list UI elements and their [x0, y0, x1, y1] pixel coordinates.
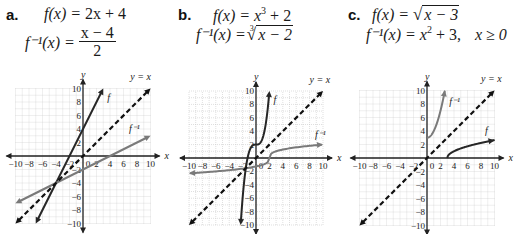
series-label: y = x	[480, 73, 502, 84]
y-tick-label: 6	[421, 113, 426, 123]
y-tick-label: −6	[415, 194, 425, 204]
y-tick-label: 4	[421, 126, 426, 136]
x-tick-label: 8	[479, 161, 484, 171]
x-tick-label: 0	[430, 161, 435, 171]
x-tick-label: −6	[382, 161, 392, 171]
y-tick-label: 10	[416, 86, 426, 96]
arrowhead-icon	[499, 155, 505, 161]
x-tick-label: 4	[452, 161, 457, 171]
x-tick-label: −10	[352, 161, 367, 171]
y-tick-label: −4	[415, 180, 425, 190]
x-tick-label: −8	[368, 161, 378, 171]
x-tick-label: 2	[438, 161, 443, 171]
x-axis-label: x	[508, 152, 514, 163]
graph-c: xy−10−8−6−4−20246810−10−8−6−4−2246810ff⁻…	[0, 0, 519, 234]
y-tick-label: 2	[421, 140, 426, 150]
y-tick-label: −10	[411, 221, 426, 231]
y-tick-label: 8	[421, 99, 426, 109]
x-tick-label: 10	[490, 161, 500, 171]
x-tick-label: −4	[395, 161, 405, 171]
y-tick-label: −8	[415, 207, 425, 217]
series-label: f⁻¹	[449, 96, 460, 107]
x-tick-label: 6	[465, 161, 470, 171]
y-axis-label: y	[424, 71, 430, 82]
series-label: f	[485, 125, 489, 136]
